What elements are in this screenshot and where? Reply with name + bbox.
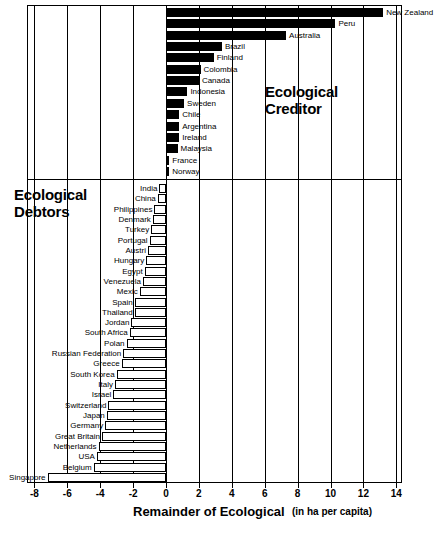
annotation-line: Creditor bbox=[265, 100, 338, 117]
bar-portugal bbox=[150, 236, 166, 245]
bar-label-greece: Greece bbox=[93, 359, 119, 368]
bar-row: Chile bbox=[0, 110, 439, 120]
bar-label-israel: Israel bbox=[92, 390, 112, 399]
bar-argentina bbox=[166, 122, 179, 131]
bar-row: Canada bbox=[0, 76, 439, 86]
bar-hungary bbox=[146, 256, 166, 265]
bar-row: Australia bbox=[0, 31, 439, 41]
bar-row: Ireland bbox=[0, 133, 439, 143]
bar-label-peru: Peru bbox=[338, 19, 355, 28]
bar-greece bbox=[122, 359, 166, 368]
x-axis-tick-label: 8 bbox=[295, 488, 301, 499]
bar-row: Germany bbox=[0, 421, 439, 431]
bar-usa bbox=[97, 452, 166, 461]
bar-label-south-korea: South Korea bbox=[70, 370, 114, 379]
bar-label-thailand: Thailand bbox=[102, 308, 133, 317]
bar-row: Switzerland bbox=[0, 401, 439, 411]
annotation-line: Ecological bbox=[265, 83, 338, 100]
bar-label-philippines: Philippines bbox=[114, 205, 153, 214]
bar-label-netherlands: Netherlands bbox=[53, 442, 96, 451]
bar-label-denmark: Denmark bbox=[118, 215, 150, 224]
bar-chile bbox=[166, 110, 179, 119]
bar-indonesia bbox=[166, 87, 187, 96]
bar-brazil bbox=[166, 42, 222, 51]
bar-netherlands bbox=[99, 442, 166, 451]
bar-row: New Zealand bbox=[0, 8, 439, 18]
bar-malaysia bbox=[166, 144, 178, 153]
bar-label-germany: Germany bbox=[70, 421, 103, 430]
bar-row: Jordan bbox=[0, 318, 439, 328]
bar-row: Belgium bbox=[0, 463, 439, 473]
bar-row: Polan bbox=[0, 339, 439, 349]
bar-row: Thailand bbox=[0, 308, 439, 318]
bar-row: Malaysia bbox=[0, 144, 439, 154]
bar-turkey bbox=[151, 225, 166, 234]
bar-south-korea bbox=[117, 370, 166, 379]
bar-label-norway: Norway bbox=[172, 167, 199, 176]
x-axis-tick-label: 4 bbox=[229, 488, 235, 499]
bar-row: Finland bbox=[0, 53, 439, 63]
x-axis-tick-label: -8 bbox=[30, 488, 39, 499]
bar-row: Egypt bbox=[0, 267, 439, 277]
bar-label-france: France bbox=[172, 156, 197, 165]
bar-label-turkey: Turkey bbox=[125, 225, 149, 234]
bar-row: Mexic bbox=[0, 287, 439, 297]
bar-row: Hungary bbox=[0, 256, 439, 266]
bar-canada bbox=[166, 76, 199, 85]
x-axis-tick-label: -2 bbox=[129, 488, 138, 499]
bar-label-brazil: Brazil bbox=[225, 42, 245, 51]
bar-philippines bbox=[154, 205, 166, 214]
bar-row: Turkey bbox=[0, 225, 439, 235]
bar-new-zealand bbox=[166, 8, 383, 17]
bar-row: Norway bbox=[0, 167, 439, 177]
x-axis-tick-label: -4 bbox=[96, 488, 105, 499]
x-axis-tick-label: -6 bbox=[63, 488, 72, 499]
bar-label-belgium: Belgium bbox=[63, 463, 92, 472]
bar-label-malaysia: Malaysia bbox=[181, 144, 213, 153]
footer-text-fragment bbox=[18, 527, 428, 537]
bar-label-italy: Italy bbox=[98, 380, 113, 389]
x-axis-tick-label: 12 bbox=[358, 488, 369, 499]
bar-label-russian-federation: Russian Federation bbox=[52, 349, 121, 358]
bar-switzerland bbox=[108, 401, 166, 410]
bar-row: South Korea bbox=[0, 370, 439, 380]
bar-ireland bbox=[166, 133, 179, 142]
bar-row: Singapore bbox=[0, 473, 439, 483]
x-axis-tick-label: 10 bbox=[325, 488, 336, 499]
bar-row: Portugal bbox=[0, 236, 439, 246]
bar-label-venezuela: Venezuela bbox=[104, 277, 141, 286]
bar-row: Colombia bbox=[0, 65, 439, 75]
bar-row: Indonesia bbox=[0, 87, 439, 97]
bar-label-polan: Polan bbox=[104, 339, 124, 348]
bar-china bbox=[158, 194, 166, 203]
bar-row: Japan bbox=[0, 411, 439, 421]
annotation-line: Ecological bbox=[14, 186, 87, 203]
bar-row: Great Britain bbox=[0, 432, 439, 442]
bar-finland bbox=[166, 53, 214, 62]
bar-label-japan: Japan bbox=[83, 411, 105, 420]
bar-row: Peru bbox=[0, 19, 439, 29]
bar-label-colombia: Colombia bbox=[204, 65, 238, 74]
bar-label-usa: USA bbox=[78, 452, 94, 461]
bar-row: South Africa bbox=[0, 328, 439, 338]
bar-row: Netherlands bbox=[0, 442, 439, 452]
bar-mexic bbox=[140, 287, 166, 296]
bar-singapore bbox=[48, 473, 166, 482]
creditor-debtor-divider bbox=[27, 179, 402, 180]
bar-egypt bbox=[145, 267, 166, 276]
bar-spain bbox=[135, 298, 166, 307]
bar-label-china: China bbox=[135, 194, 156, 203]
bar-japan bbox=[107, 411, 166, 420]
bar-denmark bbox=[153, 215, 166, 224]
bar-label-argentina: Argentina bbox=[182, 122, 216, 131]
bar-label-portugal: Portugal bbox=[118, 236, 148, 245]
bar-label-hungary: Hungary bbox=[114, 256, 144, 265]
bar-label-australia: Australia bbox=[289, 31, 320, 40]
x-axis-tick-label: 2 bbox=[196, 488, 202, 499]
bar-russian-federation bbox=[123, 349, 166, 358]
bar-south-africa bbox=[130, 328, 166, 337]
bar-australia bbox=[166, 31, 286, 40]
bar-germany bbox=[105, 421, 166, 430]
bar-great-britain bbox=[102, 432, 166, 441]
bar-label-austri: Austri bbox=[125, 246, 145, 255]
